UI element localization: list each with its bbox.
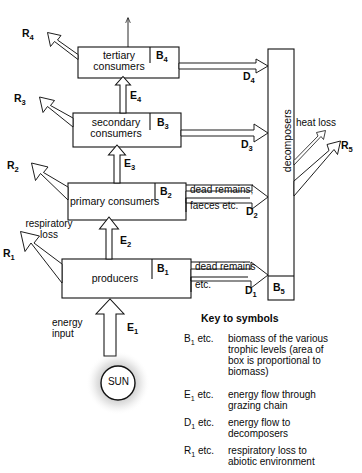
- decomposer-flow-label-D1: D1: [245, 285, 257, 299]
- arrow-D3: [181, 124, 268, 142]
- decomposer-flow-label-D3: D3: [241, 139, 253, 153]
- box-label-tertiary-consumers: tertiary consumers: [88, 50, 150, 73]
- energy-flow-label-E3: E3: [124, 158, 135, 172]
- key-entry-decomposer-flow: D1 etc. energy flow to decomposers: [184, 417, 362, 439]
- box-label-secondary-consumers: secondary consumers: [81, 117, 151, 140]
- annotation-energy-input: energy input: [52, 318, 83, 340]
- ecosystem-energy-flow-diagram: tertiary consumers B4 secondary consumer…: [0, 0, 362, 473]
- arrow-R3: [40, 97, 74, 127]
- biomass-label-B2: B2: [160, 186, 172, 200]
- energy-flow-label-E4: E4: [130, 90, 141, 104]
- energy-flow-label-E2: E2: [120, 235, 131, 249]
- biomass-label-B1: B1: [157, 263, 169, 277]
- key-entry-respiratory-loss: R1 etc. respiratory loss to abiotic envi…: [184, 445, 362, 467]
- arrow-E1: [96, 299, 124, 356]
- box-label-decomposers: decomposers: [282, 101, 293, 181]
- annotation-faeces-etc: faeces etc.: [190, 201, 238, 212]
- respiratory-loss-label-R1: R1: [3, 248, 15, 262]
- box-label-producers: producers: [82, 273, 148, 284]
- key-symbol-D: D1 etc.: [184, 417, 228, 439]
- key-description-energy-flow: energy flow through grazing chain: [228, 389, 316, 411]
- box-label-primary-consumers: primary consumers: [70, 196, 154, 207]
- key-description-biomass: biomass of the various trophic levels (a…: [228, 333, 328, 377]
- key-symbol-R: R1 etc.: [184, 445, 228, 467]
- key-symbol-B: B1 etc.: [184, 333, 228, 377]
- respiratory-loss-label-R5: R5: [341, 140, 353, 154]
- annotation-etc: etc.: [195, 280, 211, 291]
- biomass-label-B5: B5: [273, 282, 285, 296]
- decomposer-flow-label-D4: D4: [243, 71, 255, 85]
- key-title: Key to symbols: [201, 313, 279, 324]
- respiratory-loss-label-R4: R4: [22, 28, 34, 42]
- key-entry-energy-flow: E1 etc. energy flow through grazing chai…: [184, 389, 362, 411]
- respiratory-loss-label-R3: R3: [14, 93, 26, 107]
- key-symbol-E: E1 etc.: [184, 389, 228, 411]
- biomass-partition-lines: [150, 47, 155, 279]
- arrow-E3: [109, 145, 126, 183]
- arrow-E2: [100, 217, 119, 259]
- key-description-respiratory-loss: respiratory loss to abiotic environment: [228, 445, 315, 467]
- arrow-R5: [294, 141, 341, 196]
- key-entry-biomass: B1 etc. biomass of the various trophic l…: [184, 333, 362, 377]
- annotation-heat-loss: heat loss: [296, 118, 336, 129]
- arrow-E4: [116, 77, 131, 114]
- key-description-decomposer-flow: energy flow to decomposers: [228, 417, 290, 439]
- annotation-dead-remains-primary: dead remains,: [190, 185, 253, 196]
- biomass-label-B4: B4: [156, 50, 168, 64]
- decomposer-flow-label-D2: D2: [246, 206, 258, 220]
- annotation-dead-remains-producers: dead remains: [195, 262, 256, 273]
- arrow-R4: [48, 33, 79, 60]
- energy-flow-label-E1: E1: [127, 322, 138, 336]
- respiratory-loss-label-R2: R2: [7, 160, 19, 174]
- arrow-R2: [32, 163, 69, 200]
- biomass-label-B3: B3: [157, 117, 169, 131]
- sun-label: SUN: [102, 377, 135, 388]
- annotation-respiratory-loss: respiratory loss: [11, 219, 87, 241]
